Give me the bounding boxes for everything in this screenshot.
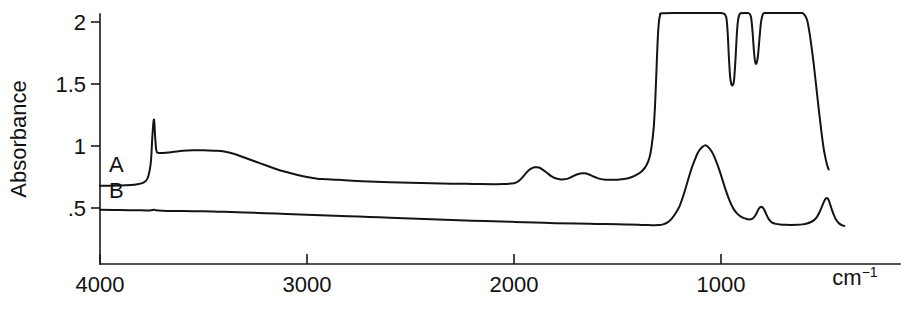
x-tick-labels: 4000 3000 2000 1000 — [76, 272, 746, 297]
svg-text:cm−1: cm−1 — [832, 264, 878, 290]
ir-spectrum-chart: 2 1.5 1 .5 4000 3000 2000 1000 cm−1 Abso… — [0, 0, 910, 309]
curve-label-a: A — [109, 152, 124, 177]
y-tick-group — [91, 22, 100, 208]
x-unit-base: cm — [832, 265, 861, 290]
y-tick-label-1p5: 1.5 — [55, 72, 86, 97]
spectrum-figure: 2 1.5 1 .5 4000 3000 2000 1000 cm−1 Abso… — [0, 0, 910, 309]
y-tick-label-1: 1 — [74, 134, 86, 159]
spectrum-curve-b — [100, 145, 844, 225]
x-tick-group — [100, 254, 721, 264]
y-tick-label-2: 2 — [74, 10, 86, 35]
x-tick-label-1000: 1000 — [697, 272, 746, 297]
x-axis-unit-label: cm−1 — [832, 264, 878, 290]
x-unit-exponent: −1 — [862, 264, 878, 280]
y-tick-labels: 2 1.5 1 .5 — [55, 10, 86, 221]
y-axis-title: Absorbance — [6, 80, 31, 197]
x-tick-label-2000: 2000 — [490, 272, 539, 297]
x-tick-label-3000: 3000 — [283, 272, 332, 297]
y-tick-label-0p5: .5 — [68, 196, 86, 221]
spectrum-curve-a — [100, 13, 829, 186]
x-tick-label-4000: 4000 — [76, 272, 125, 297]
curve-label-b: B — [109, 178, 124, 203]
